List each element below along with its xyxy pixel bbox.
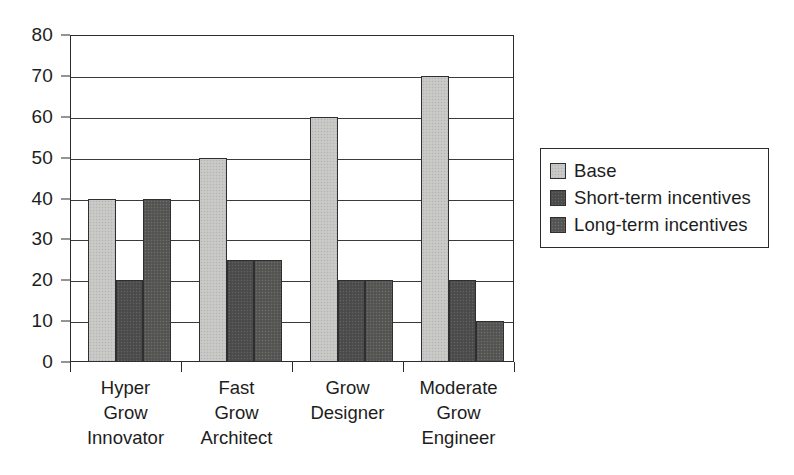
legend-label-long-term: Long-term incentives bbox=[574, 214, 748, 236]
y-axis-tick-label: 70 bbox=[31, 65, 53, 87]
x-axis: Hyper Grow InnovatorFast Grow ArchitectG… bbox=[70, 362, 514, 475]
bars-layer bbox=[70, 35, 514, 362]
x-axis-tick-mark bbox=[514, 362, 515, 372]
y-axis-tick-label: 0 bbox=[42, 351, 53, 373]
y-axis-tick-mark bbox=[61, 239, 70, 240]
bar-base-cat1 bbox=[88, 199, 116, 363]
legend-item-base: Base bbox=[550, 157, 759, 184]
y-axis-tick-label: 20 bbox=[31, 269, 53, 291]
bar-long-term-cat2 bbox=[254, 260, 282, 362]
x-axis-tick-mark bbox=[70, 362, 71, 372]
y-axis-tick-mark bbox=[61, 198, 70, 199]
x-axis-tick-mark bbox=[403, 362, 404, 372]
y-axis-tick-mark bbox=[61, 157, 70, 158]
bar-short-term-cat2 bbox=[227, 260, 255, 362]
bar-base-cat2 bbox=[199, 158, 227, 362]
y-axis-tick-mark bbox=[61, 280, 70, 281]
bar-long-term-cat1 bbox=[143, 199, 171, 363]
x-axis-category-label: Hyper Grow Innovator bbox=[70, 375, 181, 450]
chart-legend: Base Short-term incentives Long-term inc… bbox=[540, 148, 769, 248]
y-axis-tick-mark bbox=[61, 75, 70, 76]
y-axis-tick-label: 60 bbox=[31, 106, 53, 128]
y-axis: 01020304050607080 bbox=[0, 0, 70, 475]
bar-short-term-cat3 bbox=[338, 280, 366, 362]
y-axis-tick-mark bbox=[61, 321, 70, 322]
legend-label-base: Base bbox=[574, 160, 617, 182]
legend-item-long-term: Long-term incentives bbox=[550, 211, 759, 238]
legend-swatch-long-term-icon bbox=[550, 217, 566, 233]
y-axis-tick-label: 40 bbox=[31, 188, 53, 210]
y-axis-tick-label: 80 bbox=[31, 24, 53, 46]
y-axis-tick-mark bbox=[61, 35, 70, 36]
y-axis-tick-label: 50 bbox=[31, 147, 53, 169]
bar-short-term-cat4 bbox=[449, 280, 477, 362]
bar-long-term-cat4 bbox=[476, 321, 504, 362]
x-axis-tick-mark bbox=[292, 362, 293, 372]
x-axis-tick-mark bbox=[181, 362, 182, 372]
bar-base-cat4 bbox=[421, 76, 449, 362]
bar-long-term-cat3 bbox=[365, 280, 393, 362]
legend-swatch-base-icon bbox=[550, 163, 566, 179]
bar-short-term-cat1 bbox=[116, 280, 144, 362]
y-axis-tick-label: 10 bbox=[31, 310, 53, 332]
y-axis-tick-label: 30 bbox=[31, 228, 53, 250]
legend-item-short-term: Short-term incentives bbox=[550, 184, 759, 211]
bar-base-cat3 bbox=[310, 117, 338, 362]
legend-swatch-short-term-icon bbox=[550, 190, 566, 206]
x-axis-category-label: Fast Grow Architect bbox=[181, 375, 292, 450]
y-axis-tick-mark bbox=[61, 362, 70, 363]
x-axis-category-label: Moderate Grow Engineer bbox=[403, 375, 514, 450]
x-axis-category-label: Grow Designer bbox=[292, 375, 403, 425]
y-axis-tick-mark bbox=[61, 116, 70, 117]
bar-chart-figure: 01020304050607080 Hyper Grow InnovatorFa… bbox=[0, 0, 794, 475]
legend-label-short-term: Short-term incentives bbox=[574, 187, 751, 209]
